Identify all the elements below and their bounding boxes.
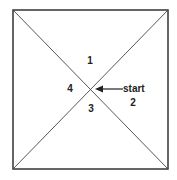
region-1-label: 1 [87, 55, 93, 66]
start-label: start [123, 83, 145, 94]
square-diagram: 1 2 3 4 start [0, 0, 177, 180]
region-3-label: 3 [88, 103, 94, 114]
region-4-label: 4 [67, 83, 73, 94]
start-arrow-icon [95, 86, 123, 93]
region-2-label: 2 [130, 97, 136, 108]
